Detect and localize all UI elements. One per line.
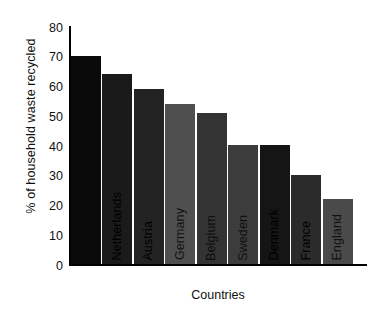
- y-tick-label: 40: [49, 140, 63, 154]
- bar-category-label: Switzerland: [79, 195, 92, 261]
- bar[interactable]: Austria: [134, 89, 164, 265]
- bar[interactable]: Denmark: [260, 145, 290, 264]
- bar-category-label: England: [331, 214, 344, 261]
- bar-category-label: Sweden: [237, 215, 250, 261]
- plot-area: 01020304050607080 SwitzerlandNetherlands…: [69, 26, 367, 266]
- y-tick-label: 60: [49, 80, 63, 94]
- y-tick-label: 20: [49, 199, 63, 213]
- bar-series: SwitzerlandNetherlandsAustriaGermanyBelg…: [71, 26, 355, 264]
- bar-category-label: Austria: [142, 221, 155, 261]
- bar[interactable]: Netherlands: [102, 74, 132, 264]
- bar[interactable]: Sweden: [228, 145, 258, 264]
- bar[interactable]: Switzerland: [71, 56, 101, 264]
- bar-category-label: Germany: [174, 208, 187, 260]
- bar[interactable]: Belgium: [197, 113, 227, 265]
- bar[interactable]: England: [323, 199, 353, 264]
- bar-chart: % of household waste recycled 0102030405…: [0, 0, 392, 313]
- bar-category-label: Belgium: [205, 215, 218, 261]
- y-tick-label: 30: [49, 169, 63, 183]
- y-tick-label: 50: [49, 110, 63, 124]
- y-tick-label: 80: [49, 21, 63, 35]
- y-axis-title: % of household waste recycled: [24, 11, 38, 241]
- bar[interactable]: France: [291, 175, 321, 264]
- y-tick-label: 70: [49, 50, 63, 64]
- x-axis-line: [69, 264, 367, 266]
- bar[interactable]: Germany: [165, 104, 195, 265]
- y-tick-label: 0: [56, 259, 63, 273]
- x-axis-title: Countries: [69, 288, 367, 302]
- bar-category-label: Denmark: [268, 209, 281, 260]
- bar-category-label: France: [300, 221, 313, 261]
- y-tick-label: 10: [49, 229, 63, 243]
- bar-category-label: Netherlands: [111, 192, 124, 261]
